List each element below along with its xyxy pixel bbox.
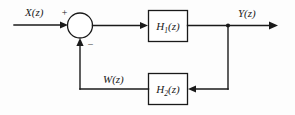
forward-block-argument: (z) xyxy=(168,20,180,33)
feedback-signal-label: W(z) xyxy=(103,73,124,86)
h2-input-arrowhead-icon xyxy=(188,85,196,92)
summing-junction-circle xyxy=(68,13,93,38)
h1-input-arrowhead-icon xyxy=(140,22,148,29)
input-signal-label: X(z) xyxy=(24,6,44,19)
summing-junction-input-arrowhead-icon xyxy=(76,38,83,46)
feedback-block-argument: (z) xyxy=(168,83,180,96)
minus-sign-label: − xyxy=(88,39,94,50)
block-diagram-svg: X(z) Y(z) W(z) + − H1(z) H2(z) xyxy=(0,0,295,115)
output-signal-label: Y(z) xyxy=(238,7,256,20)
output-arrowhead-icon xyxy=(269,22,278,30)
input-arrowhead-icon xyxy=(60,21,68,28)
plus-sign-label: + xyxy=(62,7,68,18)
block-diagram-canvas: X(z) Y(z) W(z) + − H1(z) H2(z) xyxy=(0,0,295,115)
